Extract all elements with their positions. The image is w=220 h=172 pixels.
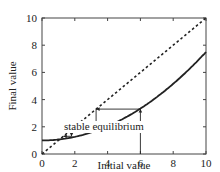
cobweb-arrowhead — [70, 133, 74, 137]
cobweb-arrowhead — [63, 135, 67, 139]
x-tick-label: 0 — [39, 157, 45, 169]
x-axis-title: Initial value — [98, 159, 151, 171]
y-tick-label: 10 — [26, 12, 38, 24]
x-tick-label: 8 — [170, 157, 176, 169]
y-tick-label: 8 — [32, 39, 38, 51]
x-tick-label: 2 — [72, 157, 78, 169]
y-tick-label: 2 — [32, 121, 38, 133]
y-tick-label: 0 — [32, 148, 38, 160]
x-tick-label: 10 — [201, 157, 213, 169]
y-axis-title: Final value — [6, 61, 18, 110]
y-tick-label: 4 — [32, 94, 38, 106]
y-tick-label: 6 — [32, 66, 38, 78]
series-layer — [42, 18, 206, 154]
identity-line — [42, 18, 206, 154]
stable-equilibrium-label: stable equilibrium — [64, 120, 144, 132]
chart: 02468100246810 Initial value Final value… — [0, 0, 220, 172]
tick-labels: 02468100246810 — [26, 12, 212, 169]
